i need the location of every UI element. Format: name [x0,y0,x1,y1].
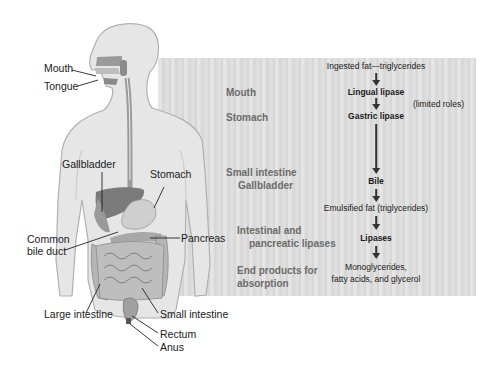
arrow-down-icon [375,73,377,81]
arrow-down-icon [375,216,377,225]
arrow-down-icon [375,98,377,105]
stage-small-intestine-2: Gallbladder [238,179,293,192]
label-common-bile-duct-1: Common [27,233,70,245]
label-gallbladder: Gallbladder [62,158,116,170]
flow-emulsified-fat: Emulsified fat (triglycerides) [324,203,428,214]
label-rectum: Rectum [160,328,196,340]
stage-end-products-1: End products for [237,264,318,277]
flow-end-products-1: Monoglycerides, [345,262,407,273]
stage-stomach: Stomach [226,111,268,124]
flow-gastric-lipase: Gastric lipase [348,111,404,122]
flow-bile: Bile [368,176,384,187]
label-stomach: Stomach [150,168,191,180]
stage-small-intestine-1: Small intestine [226,166,297,179]
stage-lipases-2: pancreatic lipases [249,237,336,250]
arrow-down-icon [375,124,377,169]
label-common-bile-duct-2: bile duct [27,245,66,257]
flow-end-products-2: fatty acids, and glycerol [332,274,421,285]
flow-limited-roles-note: (limited roles) [413,99,464,109]
flow-lingual-lipase: Lingual lipase [348,87,405,98]
flow-ingested-fat: Ingested fat—triglycerides [327,61,425,72]
arrow-down-icon [375,246,377,254]
label-pancreas: Pancreas [181,232,225,244]
stage-end-products-2: absorption [237,277,289,290]
stage-mouth: Mouth [226,86,256,99]
arrow-down-icon [375,189,377,197]
stage-lipases-1: Intestinal and [237,224,301,237]
label-small-intestine: Small intestine [160,308,228,320]
flow-lipases: Lipases [360,233,392,244]
label-mouth: Mouth [44,62,73,74]
label-anus: Anus [160,341,184,353]
label-tongue: Tongue [44,80,78,92]
label-large-intestine: Large intestine [44,308,113,320]
